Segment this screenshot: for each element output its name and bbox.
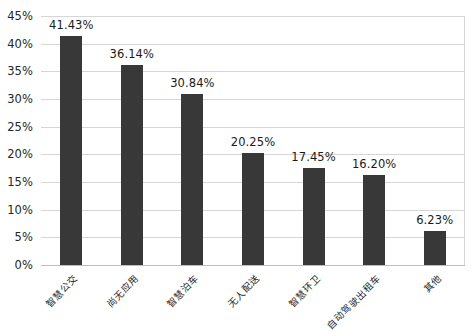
bar[interactable] xyxy=(121,65,143,265)
y-axis-tick-label: 15% xyxy=(7,175,33,189)
plot-area: 41.43%36.14%30.84%20.25%17.45%16.20%6.23… xyxy=(41,16,465,265)
y-axis-tick-label: 45% xyxy=(7,9,33,23)
bar-value-label: 41.43% xyxy=(49,18,93,32)
y-axis-tick-label: 25% xyxy=(7,120,33,134)
y-axis-tick-label: 10% xyxy=(7,203,33,217)
x-axis-label-slot: 自动驾驶出租车 xyxy=(344,265,405,332)
bar-group: 41.43% xyxy=(41,16,102,265)
y-axis-tick-label: 40% xyxy=(7,37,33,51)
bar[interactable] xyxy=(181,94,203,265)
y-axis: 45%40%35%30%25%20%15%10%5%0% xyxy=(0,0,41,281)
x-axis-labels: 智慧公交尚无应用智慧泊车无人配送智慧环卫自动驾驶出租车其他 xyxy=(41,265,465,332)
bar-group: 20.25% xyxy=(223,16,284,265)
x-axis-label-slot: 智慧公交 xyxy=(41,265,102,332)
y-axis-tick-label: 0% xyxy=(15,258,33,272)
bar-value-label: 6.23% xyxy=(416,213,453,227)
bar-group: 17.45% xyxy=(283,16,344,265)
bar-group: 16.20% xyxy=(344,16,405,265)
bar[interactable] xyxy=(424,231,446,265)
x-axis-label-slot: 无人配送 xyxy=(223,265,284,332)
bar-group: 30.84% xyxy=(162,16,223,265)
y-axis-tick-label: 5% xyxy=(15,230,33,244)
bar-chart: 45%40%35%30%25%20%15%10%5%0% 41.43%36.14… xyxy=(0,0,473,332)
bar[interactable] xyxy=(303,168,325,265)
bar-group: 6.23% xyxy=(404,16,465,265)
x-axis-tick-label: 智慧环卫 xyxy=(284,271,323,310)
bar[interactable] xyxy=(60,36,82,265)
bar-value-label: 20.25% xyxy=(231,135,275,149)
x-axis-label-slot: 智慧泊车 xyxy=(162,265,223,332)
x-axis-tick-label: 智慧公交 xyxy=(42,271,81,310)
x-axis-tick-label: 尚无应用 xyxy=(103,271,142,310)
x-axis-tick-label: 无人配送 xyxy=(224,271,263,310)
y-axis-tick-label: 30% xyxy=(7,92,33,106)
bar[interactable] xyxy=(242,153,264,265)
x-axis-label-slot: 其他 xyxy=(404,265,465,332)
y-axis-tick-label: 20% xyxy=(7,147,33,161)
bar[interactable] xyxy=(363,175,385,265)
bar-value-label: 36.14% xyxy=(110,47,154,61)
x-axis-label-slot: 尚无应用 xyxy=(102,265,163,332)
bar-group: 36.14% xyxy=(102,16,163,265)
bar-value-label: 30.84% xyxy=(170,76,214,90)
bar-value-label: 17.45% xyxy=(291,150,335,164)
x-axis-tick-label: 智慧泊车 xyxy=(163,271,202,310)
x-axis-tick-label: 其他 xyxy=(420,271,444,295)
y-axis-tick-label: 35% xyxy=(7,64,33,78)
bar-value-label: 16.20% xyxy=(352,157,396,171)
